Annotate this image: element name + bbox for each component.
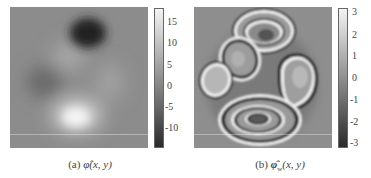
colorbar-b-tick: 3 xyxy=(352,7,357,17)
caption-b-args: (x, y) xyxy=(282,158,305,170)
colorbar-b-tick: 2 xyxy=(352,30,357,40)
colorbar-a-tick: -5 xyxy=(165,102,173,112)
colorbar-a xyxy=(154,8,164,148)
heatmap-a-graphic xyxy=(10,7,148,148)
caption-a-args: (x, y) xyxy=(89,158,112,170)
scan-artifact xyxy=(10,134,148,135)
colorbar-b-tick: -2 xyxy=(350,117,358,127)
heatmap-unwrapped-phase xyxy=(10,7,148,148)
colorbar-b-tick: -3 xyxy=(350,138,358,148)
heatmap-b-graphic xyxy=(194,7,332,148)
colorbar-a-tick: 5 xyxy=(167,60,172,70)
caption-a-label: (a) xyxy=(68,158,80,170)
panel-a: 15 10 5 0 -5 -10 (a) φ̂(x, y) xyxy=(0,0,185,178)
caption-b-label: (b) xyxy=(255,158,268,170)
colorbar-a-tick: 0 xyxy=(167,81,172,91)
colorbar-b xyxy=(338,8,348,148)
colorbar-b-tick: -1 xyxy=(350,95,358,105)
colorbar-b-tick: 1 xyxy=(352,51,357,61)
caption-b: (b) φ̂w(x, y) xyxy=(225,158,335,173)
heatmap-wrapped-phase xyxy=(194,7,332,148)
colorbar-b-tick: 0 xyxy=(352,73,357,83)
scan-artifact xyxy=(194,134,332,135)
colorbar-a-tick: -10 xyxy=(165,123,178,133)
caption-a: (a) φ̂(x, y) xyxy=(40,158,140,170)
colorbar-a-tick: 15 xyxy=(167,17,177,27)
panel-b: 3 2 1 0 -1 -2 -3 (b) φ̂w(x, y) xyxy=(185,0,371,178)
colorbar-a-tick: 10 xyxy=(167,38,177,48)
